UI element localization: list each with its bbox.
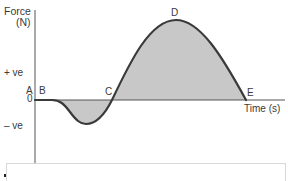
y-axis-label: Force <box>4 6 31 17</box>
x-axis-label: Time (s) <box>244 104 280 114</box>
negative-label: – ve <box>4 121 23 131</box>
point-d-label: D <box>171 8 178 18</box>
point-b-label: B <box>39 86 46 96</box>
positive-label: + ve <box>4 68 23 78</box>
point-c-label: C <box>105 87 112 97</box>
caption-panel <box>6 163 286 181</box>
point-e-label: E <box>247 88 254 98</box>
y-axis-unit: (N) <box>16 17 31 28</box>
origin-label: 0 <box>27 94 33 104</box>
